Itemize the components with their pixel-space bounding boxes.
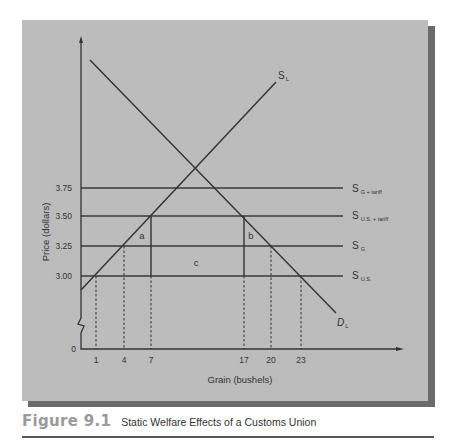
horizontal-supply-lines xyxy=(81,188,343,276)
y-axis-label: Price (dollars) xyxy=(40,203,51,262)
s-us-tariff-label: SU.S. + tariff xyxy=(352,210,389,222)
customs-union-chart: 3.75 3.50 3.25 3.00 0 Price (dollars) 1 … xyxy=(0,0,453,444)
x-tick-17: 17 xyxy=(239,355,249,365)
x-tick-4: 4 xyxy=(122,355,127,365)
x-tick-7: 7 xyxy=(149,355,154,365)
x-tick-20: 20 xyxy=(266,355,276,365)
area-a-label: a xyxy=(139,230,145,241)
x-tick-1: 1 xyxy=(94,355,99,365)
y-axis-arrow-icon xyxy=(79,36,83,43)
area-c-label: c xyxy=(194,257,199,268)
x-axis-label: Grain (bushels) xyxy=(208,374,273,385)
area-b-label: b xyxy=(248,230,253,241)
supply-curve-label: SL xyxy=(278,70,290,82)
caption-rule xyxy=(22,436,434,438)
figure-number: Figure 9.1 xyxy=(22,412,111,430)
axes xyxy=(78,42,398,349)
demand-curve-label: DL xyxy=(337,317,349,329)
s-us-label: SU.S. xyxy=(352,270,372,282)
x-tick-23: 23 xyxy=(296,355,306,365)
y-tick-300: 3.00 xyxy=(55,271,72,281)
figure-title: Static Welfare Effects of a Customs Unio… xyxy=(121,416,316,428)
origin-label: 0 xyxy=(71,344,76,354)
supply-curve xyxy=(81,82,276,290)
figure-caption: Figure 9.1 Static Welfare Effects of a C… xyxy=(22,412,316,432)
dashed-guides xyxy=(96,246,301,349)
s-g-label: SG xyxy=(352,240,365,252)
x-axis-arrow-icon xyxy=(396,347,404,351)
y-tick-350: 3.50 xyxy=(55,211,72,221)
y-tick-325: 3.25 xyxy=(55,241,72,251)
s-g-tariff-label: SG + tariff xyxy=(352,183,382,195)
y-tick-375: 3.75 xyxy=(55,183,72,193)
demand-curve xyxy=(90,60,336,313)
